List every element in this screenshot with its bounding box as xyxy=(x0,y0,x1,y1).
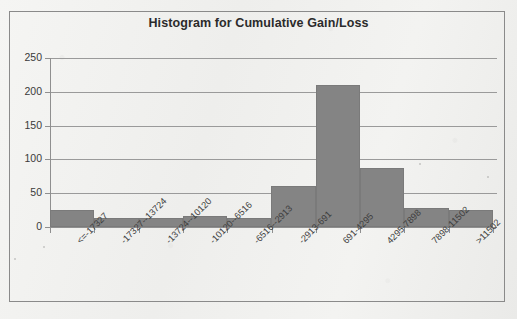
x-axis-labels: <=-17327-17327--13724-13724--10120-10120… xyxy=(50,231,493,311)
x-label-cell: -2913-691 xyxy=(271,231,315,311)
histogram-bars xyxy=(50,58,493,227)
x-label-cell: -17327--13724 xyxy=(94,231,138,311)
y-tick-label: 200 xyxy=(8,85,42,97)
y-tick-label: 250 xyxy=(8,51,42,63)
x-label-cell: 691-4295 xyxy=(316,231,360,311)
x-label-cell: <=-17327 xyxy=(50,231,94,311)
x-label-cell: -10120--6516 xyxy=(183,231,227,311)
x-label-cell: -6516--2913 xyxy=(227,231,271,311)
y-tick-label: 150 xyxy=(8,119,42,131)
y-tick-label: 0 xyxy=(8,220,42,232)
histogram-bar xyxy=(316,85,360,227)
y-tick-label: 100 xyxy=(8,152,42,164)
x-label-cell: 4295-7898 xyxy=(360,231,404,311)
x-label-cell: 7898-11502 xyxy=(404,231,448,311)
x-label-cell: -13724--10120 xyxy=(139,231,183,311)
y-tick-label: 50 xyxy=(8,186,42,198)
chart-title: Histogram for Cumulative Gain/Loss xyxy=(0,16,517,30)
x-label-cell: >11502 xyxy=(449,231,493,311)
